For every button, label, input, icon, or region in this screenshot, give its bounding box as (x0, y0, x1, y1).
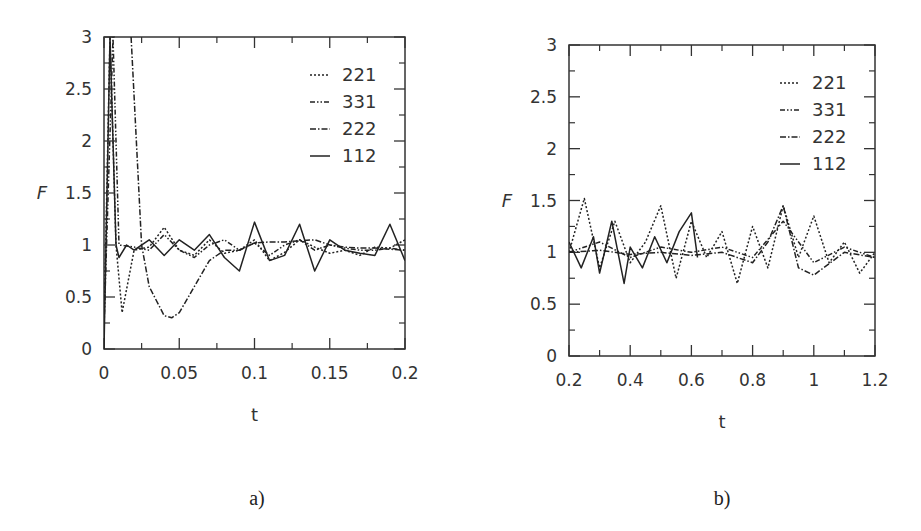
figure: 00.050.10.150.200.511.522.53tF2213312221… (0, 0, 921, 531)
y-axis-title: F (37, 182, 48, 203)
series-line-221 (569, 198, 875, 283)
y-tick-label: 2.5 (65, 79, 92, 99)
x-tick-label: 0.8 (739, 370, 766, 390)
legend-label: 222 (342, 118, 376, 139)
caption-b: b) (714, 487, 731, 510)
x-tick-label: 0.6 (678, 370, 705, 390)
legend-label: 112 (812, 153, 846, 174)
y-tick-label: 0.5 (530, 294, 557, 314)
x-tick-label: 0.1 (241, 363, 268, 383)
legend-label: 221 (342, 64, 376, 85)
x-tick-label: 1.2 (861, 370, 888, 390)
x-tick-label: 0 (99, 363, 110, 383)
panel-b-chart: 0.20.40.60.811.200.511.522.53tF221331222… (502, 35, 889, 432)
legend-label: 221 (812, 72, 846, 93)
y-axis-title: F (502, 190, 513, 211)
y-tick-label: 1.5 (65, 183, 92, 203)
x-tick-label: 1 (808, 370, 819, 390)
y-tick-label: 0 (546, 346, 557, 366)
y-tick-label: 1 (81, 235, 92, 255)
series-line-331 (569, 221, 875, 263)
y-tick-label: 0.5 (65, 287, 92, 307)
y-tick-label: 3 (81, 27, 92, 47)
panel-a-chart: 00.050.10.150.200.511.522.53tF2213312221… (37, 27, 419, 425)
y-tick-label: 3 (546, 35, 557, 55)
y-tick-label: 2 (546, 139, 557, 159)
y-tick-label: 1.5 (530, 191, 557, 211)
x-axis-title: t (251, 404, 258, 425)
y-tick-label: 2.5 (530, 87, 557, 107)
x-tick-label: 0.05 (160, 363, 198, 383)
x-tick-label: 0.2 (391, 363, 418, 383)
x-tick-label: 0.2 (555, 370, 582, 390)
y-tick-label: 0 (81, 339, 92, 359)
caption-a: a) (249, 487, 265, 510)
legend-label: 331 (812, 99, 846, 120)
legend-label: 331 (342, 91, 376, 112)
legend-label: 112 (342, 145, 376, 166)
x-axis-title: t (718, 411, 725, 432)
x-tick-label: 0.15 (311, 363, 349, 383)
x-tick-label: 0.4 (617, 370, 644, 390)
legend-label: 222 (812, 126, 846, 147)
y-tick-label: 2 (81, 131, 92, 151)
y-tick-label: 1 (546, 242, 557, 262)
